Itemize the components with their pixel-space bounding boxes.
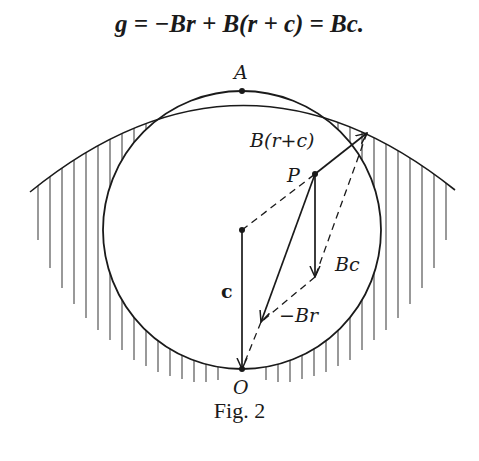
vectors [242,133,367,369]
dashed-lines [242,133,367,369]
label-A: A [232,61,248,83]
vector-B-r-plus-c [315,133,367,174]
vector-minus-Br [261,174,315,322]
label-P: P [286,164,301,186]
minusBr-to-O-dashed [242,322,261,369]
label-B-r-plus-c: B(r+c) [249,129,314,151]
label-O: O [233,376,249,398]
point-O [239,366,245,372]
label-minus-Br: −Br [279,304,320,326]
outer-boundary-arc [30,105,455,192]
label-c: c [221,280,233,302]
point-center [239,227,245,233]
point-P [312,171,318,177]
point-A [239,88,245,94]
label-Bc: Bc [334,253,360,275]
figure-caption: Fig. 2 [0,398,479,424]
diagram: A O P B(r+c) Bc −Br c [0,0,479,461]
